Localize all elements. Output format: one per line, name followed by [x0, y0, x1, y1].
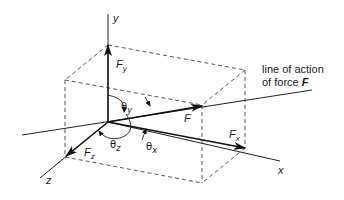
- theta-z-label: θz: [110, 139, 120, 152]
- fy-label: Fy: [116, 58, 127, 72]
- force-components-diagram: y x z Fy Fx Fz F θy θz θx line of action…: [0, 0, 344, 200]
- diagram-canvas: [0, 0, 344, 200]
- axes: [40, 14, 280, 178]
- theta-y-label: θy: [121, 101, 132, 114]
- y-axis-label: y: [113, 12, 119, 24]
- x-axis-label: x: [278, 164, 284, 176]
- line-of-action-note: line of action of force F: [262, 63, 324, 89]
- arc-theta-y-tick: [145, 97, 150, 106]
- note-line-1: line of action: [262, 63, 324, 76]
- vector-Fx: [108, 122, 245, 148]
- note-line-2: of force F: [262, 76, 324, 89]
- x-axis: [108, 122, 280, 161]
- theta-x-label: θx: [146, 141, 157, 154]
- fx-label: Fx: [229, 128, 240, 142]
- vectors: [66, 45, 245, 156]
- f-label: F: [184, 112, 191, 124]
- fz-label: Fz: [84, 146, 95, 160]
- z-axis-label: z: [46, 174, 52, 186]
